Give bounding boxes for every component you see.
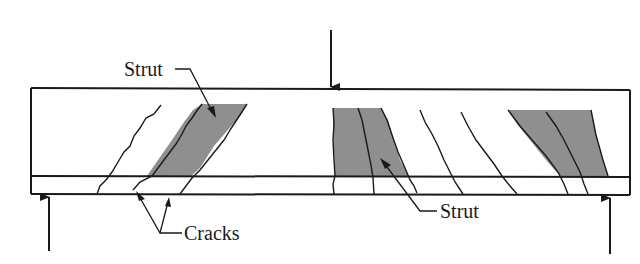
strut-regions: [147, 104, 608, 176]
cracks-label: Cracks: [184, 222, 240, 244]
beam-strut-diagram: Strut Cracks Strut: [0, 0, 640, 264]
reinforcement-line: [31, 176, 630, 177]
strut-bottom-label: Strut: [440, 200, 479, 222]
strut-left: [147, 104, 247, 176]
strut-top-label: Strut: [124, 58, 163, 80]
